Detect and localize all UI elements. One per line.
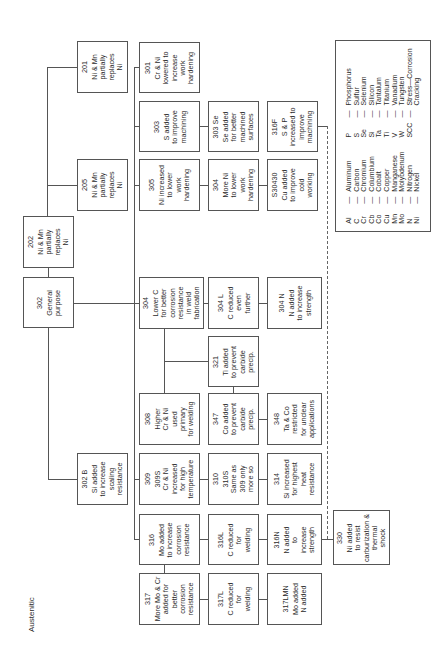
connector [322,539,333,540]
node-description-line: for highest [291,459,299,499]
node-description-line: shock [379,514,387,562]
node-description-line: hardening [183,165,191,205]
node-303: 303S addedto improvemachining [139,101,200,152]
legend-symbol: S [353,118,361,138]
connector [259,419,267,420]
node-text: 348Ta & Corestrictedfor unclearapplicati… [273,400,316,438]
node-text: 316LC reducedforwelding [216,523,251,556]
legend-name: Titanium [383,79,391,106]
node-description-line: resistance [116,461,124,496]
legend-name: Chromium [360,159,368,191]
node-description-line: working [306,168,314,202]
node-description-line: precip. [247,403,255,435]
node-text: S30430Cu addedto improvecoldworking [271,168,314,202]
legend-entry: Mo—Molybdenum [398,152,406,224]
node-id: 201 [81,53,89,80]
legend-symbol: Mn [391,204,399,224]
legend-separator: — [383,192,391,204]
legend-entry: Co—Cobalt [375,152,383,224]
node-id: 316 [148,522,156,557]
legend-entry: Ta—Tantalum [375,48,383,137]
legend-symbol: Al [345,204,353,224]
node-347: 347Co addedto preventcarbideprecip. [208,393,259,445]
node-304a: 304More Nito lowerworkhardening [208,159,259,211]
node-description-line: even [235,286,243,319]
node-id: 301 [144,51,152,84]
legend-name: Tungsten [398,77,406,106]
legend-separator: — [406,106,414,118]
legend-entry: Cb—Columbium [368,152,376,224]
node-description-line: to lower [230,169,238,201]
node-id: 317LMN [281,583,289,615]
node-text: 317More Mo & Cradded forbettercorrosionr… [144,577,195,622]
node-301: 301Cr & Nilowered toincreaseworkhardenin… [139,42,200,93]
node-description-line: machining [306,107,314,146]
node-id: 317 [144,577,152,622]
node-text: 303 SeSe addedfor bettermachinedsurfaces [212,111,255,142]
node-description-line: applications [308,400,316,438]
dashed-connector [327,126,328,539]
legend-column-left: Al—AluminumC—CarbonCr—ChromiumCb—Columbi… [345,152,421,224]
node-text: 316FS & Pincreased toimprovemachining [271,107,314,146]
legend-symbol: Se [360,118,368,138]
node-id: 304 L [216,286,224,319]
node-description-line: to increase [166,522,174,557]
node-text: 303S addedto improvemachining [152,110,187,144]
legend-name: Copper [383,169,391,192]
node-330: 330Ni addedto resistcarburization &therm… [333,510,390,565]
legend-column-right: P—PhosphorusS—SulfurSe—SeleniumSi—Silico… [345,48,421,137]
legend-name: Silicon [368,85,376,106]
connector [47,185,77,186]
node-description-line: to increase [99,461,107,496]
node-id: 308 [144,402,152,437]
node-308: 308HigherCr & Niusedprimaryfor welding [139,393,200,445]
legend-separator: — [360,106,368,118]
connector [200,479,208,480]
legend-symbol: Si [368,118,376,138]
node-id: 304 N [277,285,285,320]
node-id: 205 [81,171,89,198]
legend-separator: — [375,106,383,118]
node-description-line: Ni [62,228,70,255]
legend-symbol: W [398,118,406,138]
legend-symbol: SCC [406,118,414,138]
connector [74,303,139,304]
node-description-line: for [235,582,243,615]
node-description-line: added for [162,577,170,622]
legend-name: Tantalum [375,77,383,105]
legend-name: Stress—Corrosion [406,48,414,105]
node-description-line: resistance [187,577,195,622]
node-317lmn: 317LMNMo addedN added [267,573,322,625]
node-text: 302Generalpurpose [35,290,62,316]
legend-symbol: Co [375,204,383,224]
legend-name: Aluminum [345,161,353,192]
node-205: 205Ni & MnpartiallyreplacesNi [77,159,128,211]
node-id: 316L [216,523,224,556]
legend-symbol [413,118,421,138]
node-description-line: partially [45,228,53,255]
legend-symbol: Cb [368,204,376,224]
connector [47,67,48,216]
connector [200,126,208,127]
legend-symbol: Cr [360,204,368,224]
node-description-line: for better [230,111,238,142]
legend-symbol: P [345,118,353,138]
node-317l: 317LC reducedforwelding [208,573,259,625]
node-id: 314 [273,459,281,499]
legend-separator [413,106,421,118]
legend-name: Nitrogen [406,165,414,191]
legend-separator: — [360,192,368,204]
node-description-line: hardening [247,169,255,201]
legend-name: Manganese [391,155,399,192]
legend-separator: — [353,106,361,118]
node-text: 321Ti addedto preventcarbideprecip. [212,346,255,378]
node-310: 310310SSame as309 onlymore so [208,453,259,505]
node-id: 321 [212,346,220,378]
legend-separator: — [391,106,399,118]
node-text: 317LC reducedforwelding [216,582,251,615]
legend-symbol: N [406,204,414,224]
legend-symbol: V [391,118,399,138]
node-description-line: N added [300,583,308,615]
legend-name: Carbon [353,169,361,192]
legend-entry: Ni—Nickel [413,152,421,224]
